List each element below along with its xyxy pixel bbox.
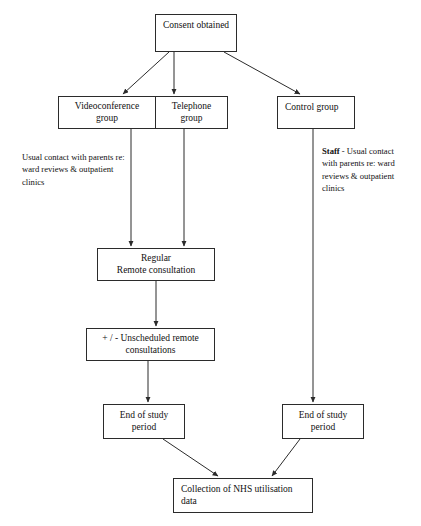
node-consent-obtained: Consent obtained (155, 14, 237, 52)
node-end-of-study-period-control: End of study period (282, 404, 364, 439)
flowchart-diagram: Consent obtained Videoconference group T… (0, 0, 421, 526)
edge-consent-to-control (224, 52, 300, 94)
node-telephone-group: Telephone group (155, 96, 228, 129)
annotation-staff-label: Staff (322, 146, 340, 156)
node-regular-remote-consultation: Regular Remote consultation (97, 248, 215, 281)
edge-end-right-to-collection (272, 439, 300, 476)
annotation-staff-usual-contact-control: Staff - Usual contact with parents re: w… (322, 145, 418, 195)
node-end-of-study-period-intervention: End of study period (103, 404, 185, 439)
annotation-usual-contact-intervention: Usual contact with parents re: ward revi… (22, 151, 154, 188)
node-unscheduled-remote-consultations: + / - Unscheduled remote consultations (86, 328, 215, 361)
node-collection-of-nhs-utilisation-data: Collection of NHS utilisation data (173, 478, 313, 513)
node-control-group: Control group (277, 96, 355, 129)
edge-consent-to-videoconference (123, 52, 169, 94)
edge-end-left-to-collection (163, 439, 218, 476)
node-videoconference-group: Videoconference group (58, 96, 156, 129)
